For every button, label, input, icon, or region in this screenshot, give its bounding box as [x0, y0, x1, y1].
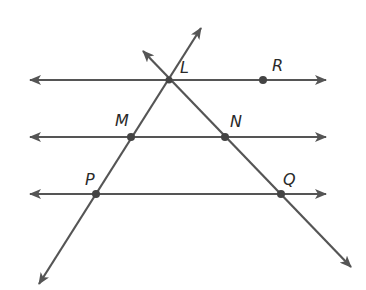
point-P — [92, 190, 100, 198]
point-N — [221, 133, 229, 141]
point-L — [166, 77, 173, 84]
label-M: M — [115, 113, 129, 129]
label-L: L — [180, 60, 189, 76]
label-P: P — [85, 172, 95, 188]
transversal-LMP — [39, 28, 201, 284]
point-M — [127, 133, 135, 141]
point-R — [259, 76, 267, 84]
label-R: R — [272, 58, 283, 74]
point-Q — [277, 190, 285, 198]
label-Q: Q — [283, 172, 296, 188]
label-N: N — [230, 114, 242, 130]
geometry-diagram — [0, 0, 366, 290]
transversal-LNQ — [143, 51, 351, 267]
